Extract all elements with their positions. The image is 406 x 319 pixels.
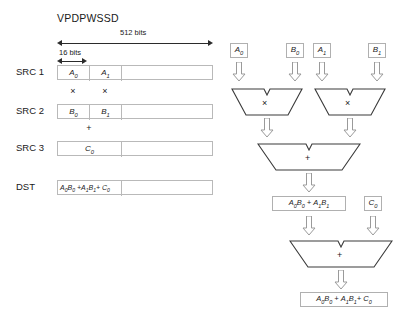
- final-result-box: A0B0 + A1B1+ C0: [300, 292, 388, 307]
- input-box-b1: B1: [368, 43, 386, 58]
- cell-src2-b1-text: B1: [101, 107, 110, 118]
- cell-dst-result-text: A0B0 +A1B1+ C0: [60, 184, 110, 193]
- input-box-a1-text: A1: [318, 45, 327, 56]
- multiplier-unit-1: ×: [314, 88, 386, 116]
- total-arrow-right-cap: [208, 40, 213, 46]
- row-label-src2: SRC 2: [16, 105, 44, 116]
- row-label-src1: SRC 1: [16, 66, 44, 77]
- cell-src2-b0-text: B0: [69, 107, 78, 118]
- arrow-mul0-to-add0: [260, 118, 274, 138]
- cell-src2-b1: B1: [90, 105, 122, 120]
- arrow-b0-to-mul0: [288, 62, 302, 82]
- input-box-b0-text: B0: [291, 45, 300, 56]
- input-box-b0: B0: [286, 43, 304, 58]
- adder-symbol-1: +: [337, 250, 342, 260]
- multiplier-symbol-0: ×: [262, 98, 267, 108]
- multiplier-unit-0: ×: [231, 88, 303, 116]
- row-label-dst: DST: [16, 181, 35, 192]
- register-dst: A0B0 +A1B1+ C0: [57, 180, 213, 195]
- cell-src1-remainder: [122, 66, 212, 81]
- arrow-a0-to-mul0: [232, 62, 246, 82]
- cell-src3-c0: C0: [58, 142, 122, 157]
- cell-src2-b0: B0: [58, 105, 90, 120]
- register-src2: B0 B1: [57, 104, 213, 119]
- instruction-title: VPDPWSSD: [57, 12, 119, 24]
- arrow-b1-to-mul1: [370, 62, 384, 82]
- arrow-c0-to-add1: [366, 216, 380, 236]
- input-box-a0-text: A0: [235, 45, 244, 56]
- multiplier-symbol-1: ×: [345, 98, 350, 108]
- register-src1: A0 A1: [57, 65, 213, 80]
- element-arrow-line: [62, 61, 82, 62]
- operator-multiply-lane1: ×: [89, 86, 121, 96]
- arrow-mul1-to-add0: [343, 118, 357, 138]
- arrow-intermediate-to-add1: [302, 216, 316, 236]
- input-box-b1-text: B1: [373, 45, 382, 56]
- element-arrow-right-cap: [82, 58, 87, 64]
- cell-src1-a1-text: A1: [101, 68, 110, 79]
- arrow-add0-to-intermediate: [302, 173, 316, 193]
- cell-src2-remainder: [122, 105, 212, 120]
- cell-src3-remainder: [122, 142, 212, 157]
- cell-src1-a0: A0: [58, 66, 90, 81]
- input-box-a0: A0: [230, 43, 248, 58]
- cell-dst-result: A0B0 +A1B1+ C0: [58, 181, 122, 196]
- final-result-text: A0B0 + A1B1+ C0: [316, 294, 372, 305]
- adder-unit-0: +: [257, 143, 361, 171]
- arrow-a1-to-mul1: [315, 62, 329, 82]
- arrow-add1-to-final: [334, 270, 348, 290]
- row-label-src3: SRC 3: [16, 142, 44, 153]
- intermediate-result-box: A0B0 + A1B1: [272, 196, 346, 211]
- carry-input-box-c0-text: C0: [369, 198, 378, 209]
- register-src3: C0: [57, 141, 213, 156]
- adder-unit-1: +: [289, 240, 393, 268]
- carry-input-box-c0: C0: [364, 196, 382, 211]
- input-box-a1: A1: [313, 43, 331, 58]
- total-width-label: 512 bits: [120, 28, 146, 37]
- cell-src1-a1: A1: [90, 66, 122, 81]
- cell-dst-remainder: [122, 181, 212, 196]
- intermediate-result-text: A0B0 + A1B1: [289, 198, 330, 209]
- adder-symbol-0: +: [305, 153, 310, 163]
- operator-multiply-lane0: ×: [57, 86, 89, 96]
- diagram-canvas: VPDPWSSD 512 bits 16 bits SRC 1 A0 A1 × …: [0, 0, 406, 319]
- cell-src3-c0-text: C0: [85, 144, 94, 155]
- total-arrow-line: [62, 43, 208, 44]
- element-width-label: 16 bits: [59, 48, 81, 57]
- operator-add-src3: +: [57, 123, 121, 133]
- cell-src1-a0-text: A0: [69, 68, 78, 79]
